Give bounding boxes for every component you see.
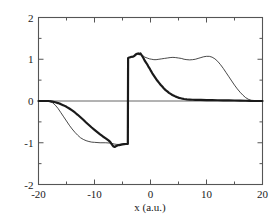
series-thin-curve [39, 53, 263, 144]
x-axis-title: x (a.u.) [134, 201, 166, 214]
y-tick-label: -2 [24, 179, 33, 191]
axis-tick-labels: -20-1001020-2-1012 [24, 12, 268, 200]
x-tick-label: 0 [148, 188, 154, 200]
x-tick-label: -10 [87, 188, 102, 200]
y-tick-label: 1 [28, 53, 34, 65]
x-tick-label: 10 [201, 188, 213, 200]
y-tick-label: 2 [28, 12, 34, 24]
y-tick-label: -1 [24, 137, 33, 149]
data-series-group [39, 53, 263, 147]
x-tick-label: 20 [257, 188, 269, 200]
chart-plot: -20-1001020-2-1012 x (a.u.) [0, 0, 275, 223]
series-thick-noisy-curve [39, 53, 263, 147]
figure-container: -20-1001020-2-1012 x (a.u.) [0, 0, 275, 223]
y-tick-label: 0 [28, 95, 34, 107]
